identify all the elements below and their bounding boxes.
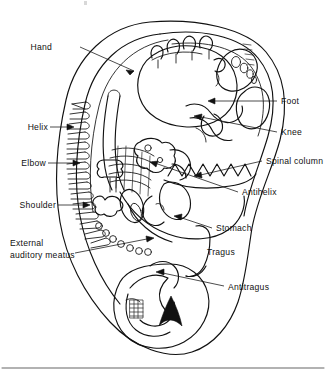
- label-spinal-column: Spinal column: [266, 156, 323, 166]
- antihelix-sawtooth: [164, 164, 256, 188]
- label-tragus: Tragus: [207, 247, 235, 257]
- label-foot: Foot: [281, 96, 300, 106]
- fetus-pelvis: [134, 138, 190, 180]
- label-shoulder: Shoulder: [20, 200, 56, 210]
- label-meatus-line1: External: [10, 238, 44, 248]
- label-knee: Knee: [281, 127, 302, 137]
- fetus-knee-leg: [186, 104, 243, 142]
- label-antitragus: Antitragus: [228, 282, 269, 292]
- arrowhead-antihelix: [150, 161, 158, 167]
- label-stomach: Stomach: [216, 223, 252, 233]
- shoulder-bone: [93, 196, 123, 216]
- figure-root: Hand Helix Elbow Shoulder External audit…: [0, 0, 326, 370]
- arm-elbow-bone: [97, 90, 124, 192]
- leader-lines: [48, 47, 277, 286]
- fetus-torso: [120, 192, 244, 242]
- fetus-head: [138, 46, 237, 127]
- fetus-second-foot: [236, 87, 269, 129]
- teeth-hatching: [130, 300, 143, 318]
- label-antihelix: Antihelix: [242, 187, 277, 197]
- label-helix: Helix: [28, 122, 49, 132]
- arrowhead-meatus: [146, 236, 154, 242]
- arrowhead-foot: [208, 98, 215, 104]
- stomach-shape: [142, 182, 190, 225]
- arrowhead-hand: [126, 70, 134, 75]
- arrowhead-knee: [194, 114, 202, 120]
- label-elbow: Elbow: [21, 158, 46, 168]
- arrowhead-antitragus: [156, 269, 164, 275]
- solid-triangle-mark: [159, 296, 182, 326]
- label-meatus-line2: auditory meatus: [10, 250, 75, 260]
- label-hand: Hand: [30, 42, 52, 52]
- ear-fetal-homunculus-diagram: Hand Helix Elbow Shoulder External audit…: [0, 0, 326, 370]
